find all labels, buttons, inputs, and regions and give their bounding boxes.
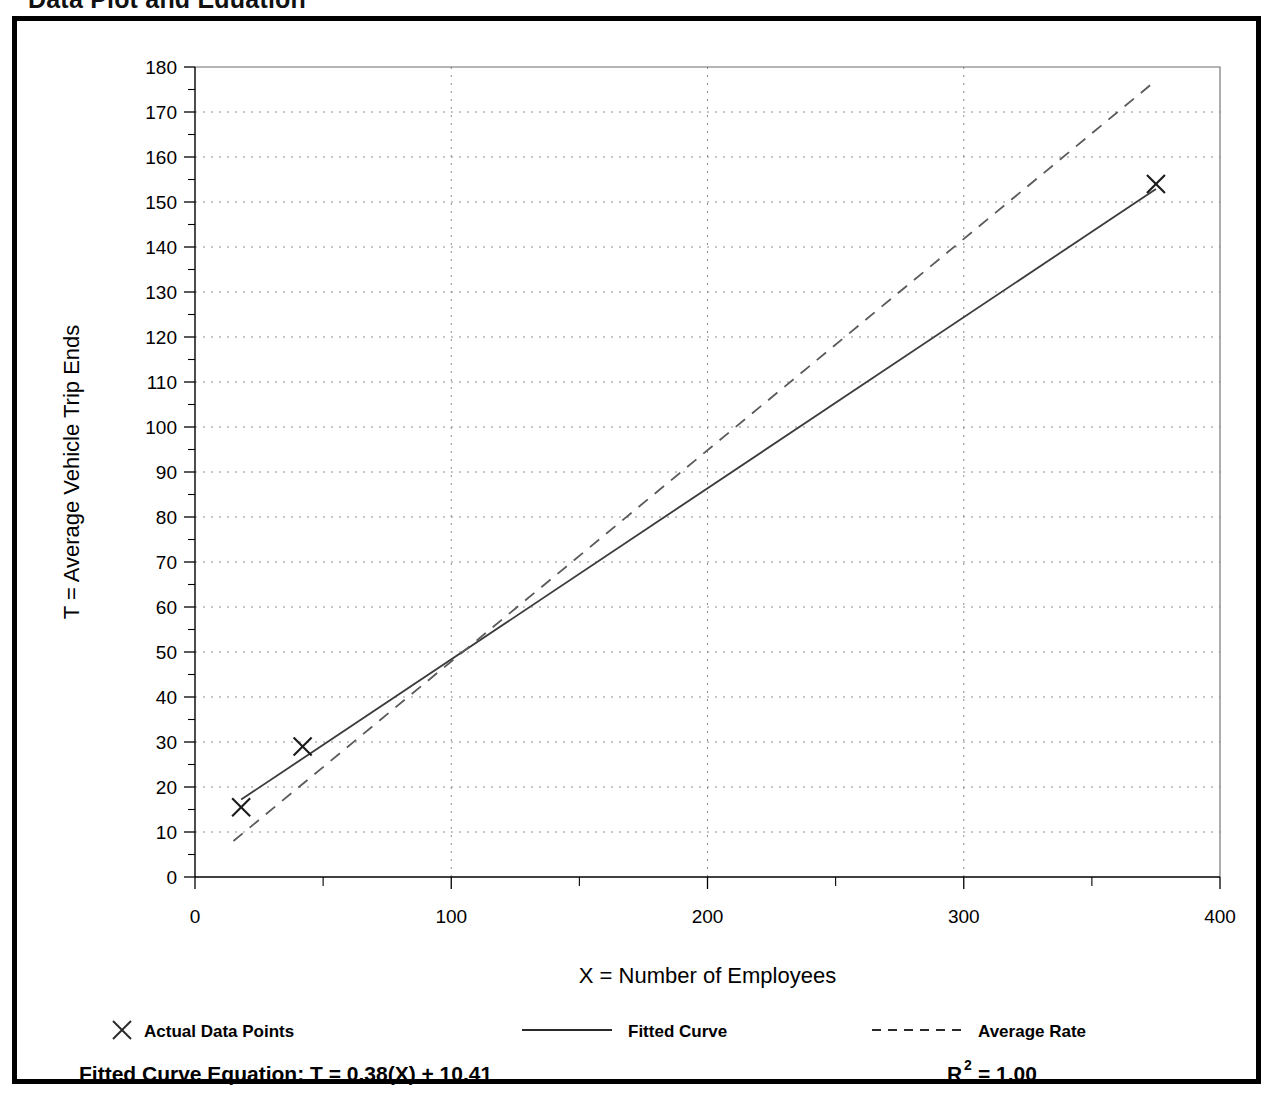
average-rate-line	[233, 81, 1156, 842]
y-tick-label: 90	[156, 462, 177, 483]
svg-text:R: R	[947, 1062, 962, 1085]
legend-label: Average Rate	[978, 1022, 1086, 1041]
data-points	[232, 175, 1165, 816]
x-marker-icon	[113, 1021, 131, 1039]
y-tick-label: 110	[147, 372, 177, 393]
y-tick-label: 120	[145, 327, 177, 348]
y-tick-label: 100	[145, 417, 177, 438]
chart-legend[interactable]: Actual Data PointsFitted CurveAverage Ra…	[113, 1021, 1086, 1041]
equation-row: Fitted Curve Equation: T = 0.38(X) + 10.…	[79, 1057, 1037, 1085]
svg-text:= 1.00: = 1.00	[978, 1062, 1037, 1085]
r-squared-text: R2= 1.00	[947, 1057, 1037, 1085]
figure-frame: 0102030405060708090100110120130140150160…	[12, 16, 1261, 1084]
page-heading: Data Plot and Equation	[28, 0, 306, 8]
chart-plot-area: 0102030405060708090100110120130140150160…	[17, 21, 1266, 1089]
legend-item[interactable]: Actual Data Points	[113, 1021, 294, 1041]
svg-text:2: 2	[964, 1057, 972, 1073]
y-tick-label: 10	[156, 822, 177, 843]
y-tick-label: 30	[156, 732, 177, 753]
y-tick-label: 170	[145, 102, 177, 123]
y-tick-label: 40	[156, 687, 177, 708]
y-tick-label: 160	[145, 147, 177, 168]
x-tick-label: 300	[948, 906, 980, 927]
y-tick-label: 20	[156, 777, 177, 798]
x-tick-label: 0	[190, 906, 201, 927]
y-tick-label: 70	[156, 552, 177, 573]
x-tick-label: 200	[692, 906, 724, 927]
x-axis-title: X = Number of Employees	[579, 963, 836, 988]
y-tick-label: 0	[166, 867, 177, 888]
y-tick-label: 80	[156, 507, 177, 528]
data-point-marker	[294, 738, 312, 756]
data-series	[233, 81, 1156, 842]
grid-lines	[195, 67, 1220, 877]
legend-label: Actual Data Points	[144, 1022, 294, 1041]
y-tick-label: 130	[145, 282, 177, 303]
data-point-marker	[232, 798, 250, 816]
y-tick-label: 150	[145, 192, 177, 213]
tick-labels: 0102030405060708090100110120130140150160…	[145, 57, 1236, 927]
y-axis-title: T = Average Vehicle Trip Ends	[59, 325, 84, 620]
y-tick-label: 60	[156, 597, 177, 618]
scatter-chart: 0102030405060708090100110120130140150160…	[17, 21, 1266, 1089]
axis-ticks	[184, 67, 1220, 889]
legend-item[interactable]: Average Rate	[872, 1022, 1086, 1041]
y-tick-label: 140	[145, 237, 177, 258]
y-tick-label: 180	[145, 57, 177, 78]
x-tick-label: 100	[435, 906, 467, 927]
legend-label: Fitted Curve	[628, 1022, 727, 1041]
fitted-curve-line	[241, 189, 1156, 800]
equation-text: Fitted Curve Equation: T = 0.38(X) + 10.…	[79, 1062, 492, 1085]
data-point-marker	[1147, 175, 1165, 193]
legend-item[interactable]: Fitted Curve	[522, 1022, 727, 1041]
x-tick-label: 400	[1204, 906, 1236, 927]
y-tick-label: 50	[156, 642, 177, 663]
